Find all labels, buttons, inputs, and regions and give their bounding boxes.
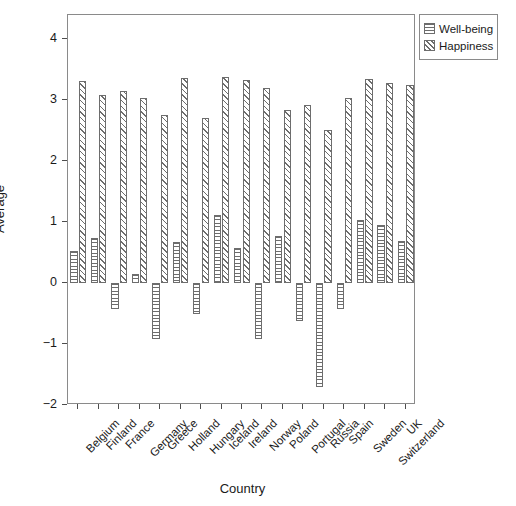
x-tick xyxy=(323,404,324,409)
y-tick-label-neg2: −2 xyxy=(43,397,57,411)
bar-uk-well-being xyxy=(398,241,405,283)
x-tick xyxy=(159,404,160,409)
bar-germany-happiness xyxy=(140,98,147,283)
bar-belgium-well-being xyxy=(70,251,77,283)
bar-hungary-well-being xyxy=(193,283,200,313)
bar-portugal-well-being xyxy=(296,283,303,321)
bar-switzerland-well-being xyxy=(377,225,384,283)
x-tick xyxy=(302,404,303,409)
x-tick xyxy=(98,404,99,409)
bar-france-happiness xyxy=(120,91,127,283)
x-tick xyxy=(200,404,201,409)
well-being-swatch-icon xyxy=(424,23,435,34)
bar-sweden-well-being xyxy=(357,220,364,283)
bar-holland-happiness xyxy=(181,78,188,283)
y-tick-label-0: 0 xyxy=(50,275,57,289)
legend-label-happiness: Happiness xyxy=(439,40,493,52)
y-tick xyxy=(62,38,67,39)
y-tick xyxy=(62,404,67,405)
bar-greece-happiness xyxy=(161,115,168,283)
x-tick xyxy=(384,404,385,409)
bar-finland-happiness xyxy=(99,95,106,283)
bar-poland-well-being xyxy=(275,236,282,283)
bar-sweden-happiness xyxy=(365,79,372,283)
bar-poland-happiness xyxy=(284,110,291,283)
bar-spain-well-being xyxy=(337,283,344,309)
bar-russia-well-being xyxy=(316,283,323,387)
y-tick-label-1: 1 xyxy=(50,214,57,228)
happiness-swatch-icon xyxy=(424,40,435,51)
y-tick-label-2: 2 xyxy=(50,153,57,167)
bar-ireland-well-being xyxy=(234,248,241,283)
y-tick-label-3: 3 xyxy=(50,92,57,106)
bar-norway-happiness xyxy=(263,88,270,284)
chart-root: BelgiumFinlandFranceGermanyGreeceHolland… xyxy=(0,0,516,506)
y-tick-label-4: 4 xyxy=(50,31,57,45)
x-tick xyxy=(139,404,140,409)
x-tick xyxy=(261,404,262,409)
bar-uk-happiness xyxy=(406,85,413,283)
bar-ireland-happiness xyxy=(243,80,250,283)
x-tick xyxy=(221,404,222,409)
y-tick xyxy=(62,160,67,161)
x-axis-title: Country xyxy=(0,481,485,496)
bar-france-well-being xyxy=(111,283,118,309)
bar-spain-happiness xyxy=(345,98,352,283)
plot-area xyxy=(67,14,415,404)
y-axis-title: Average xyxy=(0,185,7,233)
x-tick xyxy=(282,404,283,409)
x-tick-label-sweden: Sweden xyxy=(371,417,409,455)
chart-legend: Well-being Happiness xyxy=(419,14,498,60)
bar-finland-well-being xyxy=(91,238,98,283)
y-tick xyxy=(62,221,67,222)
x-tick xyxy=(118,404,119,409)
x-tick xyxy=(364,404,365,409)
bar-belgium-happiness xyxy=(79,81,86,283)
bar-germany-well-being xyxy=(132,274,139,283)
bar-portugal-happiness xyxy=(304,105,311,284)
bar-greece-well-being xyxy=(152,283,159,339)
x-tick xyxy=(180,404,181,409)
bar-iceland-happiness xyxy=(222,77,229,283)
y-tick-label-neg1: −1 xyxy=(43,336,57,350)
legend-item-happiness: Happiness xyxy=(424,37,493,54)
bar-russia-happiness xyxy=(324,130,331,284)
legend-item-well-being: Well-being xyxy=(424,20,493,37)
bars-layer xyxy=(68,15,414,403)
y-tick xyxy=(62,282,67,283)
x-tick xyxy=(405,404,406,409)
x-tick xyxy=(241,404,242,409)
bar-hungary-happiness xyxy=(202,118,209,283)
x-tick xyxy=(343,404,344,409)
bar-norway-well-being xyxy=(255,283,262,339)
bar-switzerland-happiness xyxy=(386,83,393,283)
bar-holland-well-being xyxy=(173,242,180,283)
y-tick xyxy=(62,99,67,100)
legend-label-well-being: Well-being xyxy=(439,23,493,35)
bar-iceland-well-being xyxy=(214,215,221,283)
x-tick xyxy=(77,404,78,409)
y-tick xyxy=(62,343,67,344)
